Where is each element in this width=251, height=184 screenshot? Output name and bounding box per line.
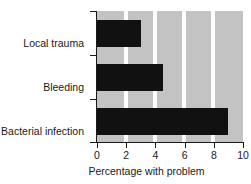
y-axis-tick-0 [90, 11, 96, 12]
x-axis-tick-label-2: 2 [116, 149, 136, 161]
x-axis-tick-2 [126, 143, 127, 148]
bar-chart: Local trauma Bleeding Bacterial infectio… [0, 0, 251, 184]
x-axis-tick-label-6: 6 [175, 149, 195, 161]
y-axis-tick-3 [90, 142, 96, 143]
x-axis-tick-label-4: 4 [145, 149, 165, 161]
x-axis-line [96, 142, 244, 143]
y-axis-line [96, 11, 97, 142]
category-axis-labels: Local trauma Bleeding Bacterial infectio… [0, 10, 88, 142]
x-axis-tick-label-8: 8 [204, 149, 224, 161]
x-axis-tick-4 [155, 143, 156, 148]
category-label-local-trauma: Local trauma [0, 38, 84, 49]
x-axis-title: Percentage with problem [0, 165, 251, 177]
x-axis-tick-10 [243, 143, 244, 148]
x-axis-tick-8 [214, 143, 215, 148]
category-label-bacterial-infection: Bacterial infection [0, 126, 84, 137]
y-axis-tick-1 [90, 55, 96, 56]
bar-bleeding [97, 64, 163, 91]
x-axis-tick-6 [185, 143, 186, 148]
bar-local-trauma [97, 20, 141, 47]
plot-area [97, 11, 243, 142]
category-label-bleeding: Bleeding [0, 82, 84, 93]
y-axis-tick-2 [90, 99, 96, 100]
x-axis-tick-label-10: 10 [233, 149, 251, 161]
x-axis-tick-0 [97, 143, 98, 148]
bar-bacterial-infection [97, 108, 228, 135]
x-axis-tick-label-0: 0 [87, 149, 107, 161]
